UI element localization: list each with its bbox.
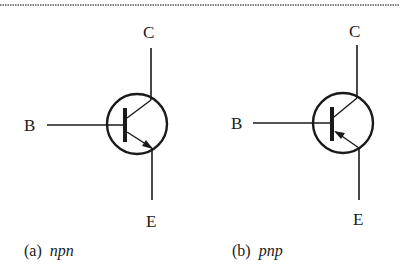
pnp-transistor-symbol: C B E [231, 22, 373, 229]
pnp-caption-type: pnp [258, 242, 283, 260]
bjt-symbols-figure: C B E (a) npn C B E (b) pnp [0, 0, 400, 269]
pnp-caption: (b) pnp [232, 242, 283, 260]
npn-base-label: B [24, 116, 35, 135]
npn-collector-label: C [143, 23, 154, 42]
pnp-caption-prefix: (b) [232, 242, 251, 260]
pnp-collector-label: C [349, 22, 360, 41]
npn-caption: (a) npn [24, 242, 74, 260]
npn-emitter-arrow-icon [142, 140, 153, 149]
npn-caption-type: npn [50, 242, 74, 260]
npn-transistor-symbol: C B E [24, 23, 167, 231]
pnp-base-label: B [231, 114, 242, 133]
npn-caption-prefix: (a) [24, 242, 42, 260]
pnp-emitter-label: E [353, 210, 363, 229]
npn-collector-internal [127, 100, 151, 118]
npn-envelope-circle [107, 94, 167, 154]
diagram-canvas: C B E (a) npn C B E (b) pnp [0, 0, 400, 269]
npn-emitter-label: E [146, 212, 156, 231]
pnp-collector-internal [334, 98, 357, 117]
